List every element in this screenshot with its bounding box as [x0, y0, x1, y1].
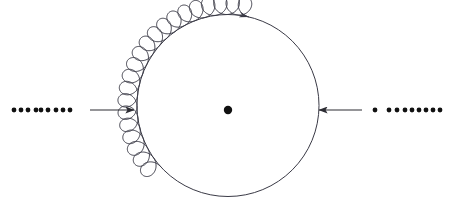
beam-dot — [373, 108, 378, 113]
orbit-circle-group — [137, 15, 319, 197]
cycloid-group — [118, 0, 252, 177]
cycloid-loop-path — [118, 0, 252, 177]
beam-dot — [424, 108, 429, 113]
beam-dot — [403, 108, 408, 113]
center-dot-group — [224, 106, 232, 114]
beam-dot — [431, 108, 436, 113]
beam-dot — [46, 108, 51, 113]
beam-dot — [417, 108, 422, 113]
beam-dot — [61, 108, 66, 113]
beam-dot — [34, 108, 39, 113]
beam-dot — [68, 108, 73, 113]
beam-dot — [26, 108, 31, 113]
beam-dot — [410, 108, 415, 113]
beam-dot — [438, 108, 443, 113]
beam-dot — [39, 108, 44, 113]
beam-dot — [54, 108, 59, 113]
left-dot-series — [12, 108, 73, 113]
diagram-svg — [0, 0, 453, 207]
diagram-canvas — [0, 0, 453, 207]
beam-dot — [19, 108, 24, 113]
orbit-circle — [137, 15, 319, 197]
beam-dot — [387, 108, 392, 113]
right-dot-series — [373, 108, 443, 113]
center-dot — [224, 106, 232, 114]
beam-dot — [12, 108, 17, 113]
beam-dot — [395, 108, 400, 113]
